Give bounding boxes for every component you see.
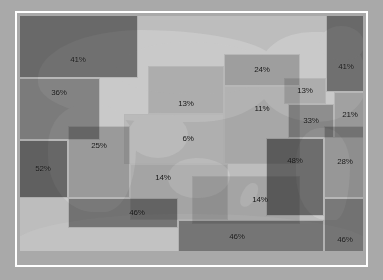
region-value-label: 11%: [255, 105, 270, 113]
region-value-label: 36%: [51, 89, 66, 97]
region-value-label: 13%: [297, 87, 312, 95]
region-value-label: 33%: [303, 117, 318, 125]
region-value-label: 41%: [70, 56, 85, 64]
region-value-label: 41%: [338, 63, 353, 71]
map-region-13-north-central[interactable]: 13%: [148, 66, 224, 114]
region-value-label: 46%: [229, 233, 244, 241]
region-value-label: 14%: [155, 174, 170, 182]
region-value-label: 48%: [287, 157, 302, 165]
map-region-28-east-lower[interactable]: 28%: [324, 126, 363, 198]
map-region-46-south-left[interactable]: 46%: [68, 198, 178, 228]
map-region-48-east-central[interactable]: 48%: [266, 138, 324, 216]
region-value-label: 52%: [35, 165, 50, 173]
region-value-label: 25%: [91, 142, 106, 150]
region-value-label: 13%: [178, 100, 193, 108]
map-region-52-west-edge[interactable]: 52%: [20, 140, 68, 198]
map-region-41-northeast-edge[interactable]: 41%: [326, 16, 363, 92]
region-value-label: 24%: [254, 66, 269, 74]
map-region-46-south-right[interactable]: 46%: [324, 198, 363, 251]
map-region-41-northwest[interactable]: 41%: [20, 16, 138, 78]
figure-container: 41% 36% 52% 25% 13% 6% 24% 11% 14% 14%: [15, 11, 368, 267]
region-value-label: 46%: [129, 209, 144, 217]
map-region-13-northeast-inner[interactable]: 13%: [284, 78, 326, 104]
map-region-6-center[interactable]: 6%: [124, 114, 224, 164]
region-value-label: 28%: [337, 158, 352, 166]
map-region-46-south-center[interactable]: 46%: [178, 220, 324, 251]
region-value-label: 6%: [182, 135, 193, 143]
region-value-label: 46%: [337, 236, 352, 244]
map-region-25-west-central[interactable]: 25%: [68, 126, 130, 198]
region-value-label: 21%: [342, 111, 357, 119]
map-plot-area: 41% 36% 52% 25% 13% 6% 24% 11% 14% 14%: [20, 16, 363, 251]
